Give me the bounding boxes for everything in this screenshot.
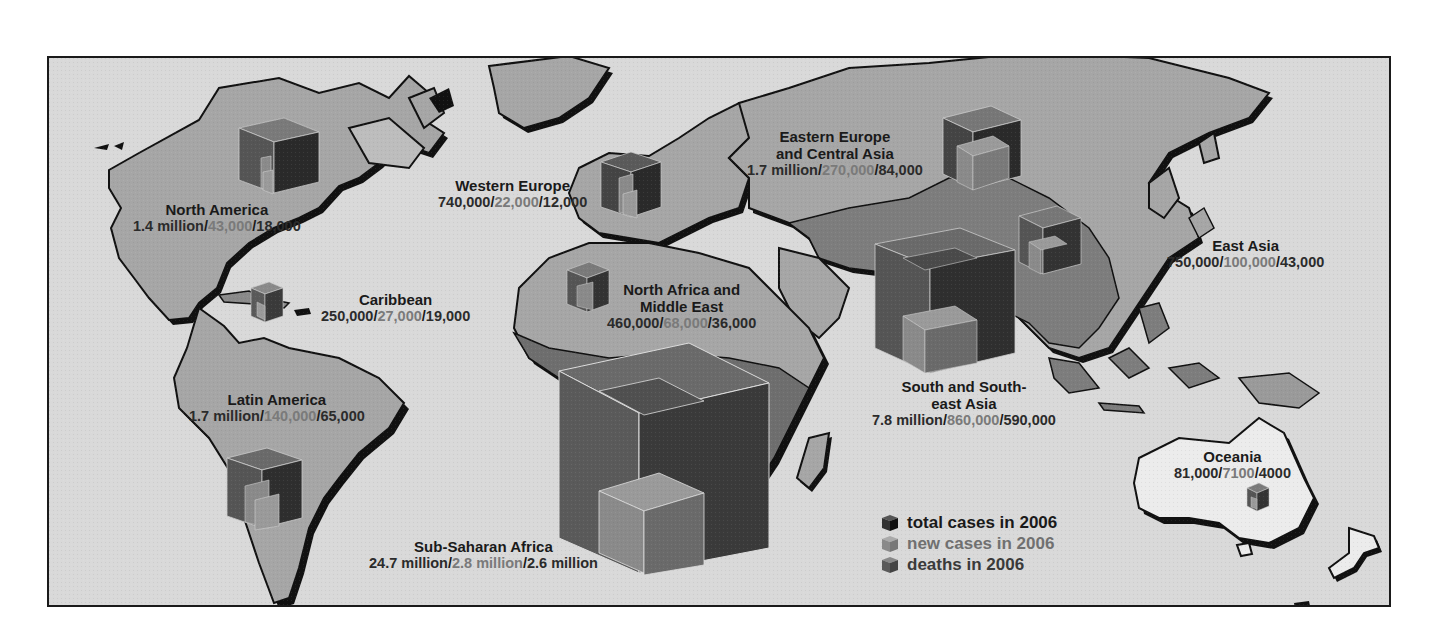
region-values: 1.7 million/270,000/84,000 bbox=[747, 162, 923, 179]
region-name-line2: Middle East bbox=[607, 298, 756, 315]
region-values: 750,000/100,000/43,000 bbox=[1167, 254, 1324, 271]
label-east-asia: East Asia 750,000/100,000/43,000 bbox=[1167, 237, 1324, 271]
legend-item-deaths: deaths in 2006 bbox=[881, 554, 1057, 575]
region-name-line2: and Central Asia bbox=[747, 145, 923, 162]
region-values: 1.4 million/43,000/18,000 bbox=[133, 218, 301, 235]
legend-label: total cases in 2006 bbox=[907, 513, 1057, 533]
world-map bbox=[49, 58, 1391, 607]
region-values: 740,000/22,000/12,000 bbox=[438, 194, 587, 211]
label-eastern-europe: Eastern Europe and Central Asia 1.7 mill… bbox=[747, 128, 923, 179]
map-frame: North America 1.4 million/43,000/18,000 … bbox=[47, 56, 1391, 607]
label-caribbean: Caribbean 250,000/27,000/19,000 bbox=[321, 291, 470, 325]
region-values: 1.7 million/140,000/65,000 bbox=[189, 408, 365, 425]
region-name: North America bbox=[133, 201, 301, 218]
region-values: 7.8 million/860,000/590,000 bbox=[872, 412, 1056, 429]
region-values: 250,000/27,000/19,000 bbox=[321, 308, 470, 325]
cube-icon-total bbox=[881, 514, 899, 532]
label-western-europe: Western Europe 740,000/22,000/12,000 bbox=[438, 177, 587, 211]
region-name-line2: east Asia bbox=[872, 395, 1056, 412]
region-name-line1: North Africa and bbox=[607, 281, 756, 298]
region-name: Sub-Saharan Africa bbox=[369, 538, 598, 555]
region-name: Caribbean bbox=[321, 291, 470, 308]
region-values: 81,000/7100/4000 bbox=[1174, 465, 1291, 482]
region-name-line1: Eastern Europe bbox=[747, 128, 923, 145]
label-north-africa: North Africa and Middle East 460,000/68,… bbox=[607, 281, 756, 332]
label-north-america: North America 1.4 million/43,000/18,000 bbox=[133, 201, 301, 235]
cube-icon-deaths bbox=[881, 556, 899, 574]
region-values: 24.7 million/2.8 million/2.6 million bbox=[369, 555, 598, 572]
legend-label: new cases in 2006 bbox=[907, 534, 1054, 554]
legend-item-new: new cases in 2006 bbox=[881, 533, 1057, 554]
legend-item-total: total cases in 2006 bbox=[881, 512, 1057, 533]
cube-icon-new bbox=[881, 535, 899, 553]
region-name: Latin America bbox=[189, 391, 365, 408]
label-south-asia: South and South- east Asia 7.8 million/8… bbox=[872, 378, 1056, 429]
label-oceania: Oceania 81,000/7100/4000 bbox=[1174, 448, 1291, 482]
label-latin-america: Latin America 1.7 million/140,000/65,000 bbox=[189, 391, 365, 425]
legend-label: deaths in 2006 bbox=[907, 555, 1024, 575]
label-sub-saharan-africa: Sub-Saharan Africa 24.7 million/2.8 mill… bbox=[369, 538, 598, 572]
region-name-line1: South and South- bbox=[872, 378, 1056, 395]
region-values: 460,000/68,000/36,000 bbox=[607, 315, 756, 332]
region-name: Western Europe bbox=[438, 177, 587, 194]
legend: total cases in 2006 new cases in 2006 de… bbox=[881, 512, 1057, 575]
region-name: East Asia bbox=[1167, 237, 1324, 254]
region-name: Oceania bbox=[1174, 448, 1291, 465]
